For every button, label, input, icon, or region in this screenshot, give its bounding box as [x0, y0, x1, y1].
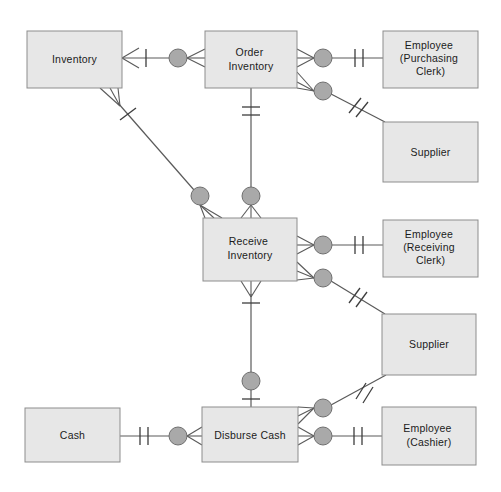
- crowsfoot-receive-inventory-right-employee: [297, 236, 314, 254]
- relationship-node-order-employee[interactable]: [314, 49, 332, 67]
- crowsfoot-order-inventory-left: [187, 49, 205, 67]
- crowsfoot-receive-inventory-topleft: [200, 205, 222, 218]
- crowsfoot-receive-inventory-right-supplier: [297, 262, 314, 280]
- crowsfoot-order-inventory-right-employee: [297, 49, 314, 67]
- entity-employee-purchasing-clerk[interactable]: Employee (Purchasing Clerk): [383, 31, 478, 88]
- tick-receive-supplier-a: [349, 288, 360, 303]
- entity-supplier-bottom-label: Supplier: [409, 338, 449, 350]
- relationship-node-receive-employee[interactable]: [314, 236, 332, 254]
- entity-receive-inventory[interactable]: Receive Inventory: [203, 218, 297, 281]
- entity-supplier-top-label: Supplier: [410, 146, 450, 158]
- relationship-node-order-receive[interactable]: [242, 187, 260, 205]
- crowsfoot-disburse-cash-right-employee: [298, 427, 314, 445]
- relationship-node-order-supplier[interactable]: [314, 82, 332, 100]
- crowsfoot-disburse-cash-right-supplier: [298, 407, 314, 424]
- entity-supplier-bottom[interactable]: Supplier: [382, 314, 476, 375]
- relationship-node-receive-supplier[interactable]: [314, 269, 332, 287]
- entity-order-inventory[interactable]: Order Inventory: [205, 31, 297, 88]
- entity-cash-label: Cash: [60, 429, 85, 441]
- entity-cash[interactable]: Cash: [25, 408, 120, 462]
- entity-employee-receiving-clerk[interactable]: Employee (Receiving Clerk): [383, 220, 478, 277]
- entity-inventory-label: Inventory: [52, 53, 98, 65]
- entity-disburse-cash-label: Disburse Cash: [214, 429, 285, 441]
- tick-inventory-receive-one: [120, 108, 136, 120]
- relationship-node-receive-disburse[interactable]: [242, 372, 260, 390]
- line-disburse-cash-supplier: [331, 375, 386, 405]
- tick-receive-supplier-b: [356, 292, 367, 307]
- relationship-node-inventory-receive[interactable]: [191, 187, 209, 205]
- er-diagram-svg: Inventory Order Inventory Employee (Purc…: [0, 0, 501, 492]
- crowsfoot-receive-inventory-top: [241, 205, 261, 218]
- entity-inventory[interactable]: Inventory: [27, 31, 122, 88]
- crowsfoot-disburse-cash-left: [187, 427, 202, 445]
- relationship-node-cash-disburse[interactable]: [169, 427, 187, 445]
- relationship-node-inventory-order[interactable]: [169, 49, 187, 67]
- crowsfoot-order-inventory-right-supplier: [297, 72, 314, 91]
- line-order-inventory-supplier: [331, 94, 385, 122]
- line-inventory-receive-inventory: [118, 103, 194, 190]
- entity-disburse-cash[interactable]: Disburse Cash: [202, 407, 298, 462]
- line-receive-inventory-supplier: [331, 281, 385, 314]
- entity-employee-cashier[interactable]: Employee (Cashier): [382, 407, 476, 465]
- relationship-node-disburse-supplier[interactable]: [314, 399, 332, 417]
- entity-supplier-top[interactable]: Supplier: [383, 122, 478, 182]
- tick-disburse-supplier-b: [363, 387, 373, 403]
- er-diagram-canvas: Inventory Order Inventory Employee (Purc…: [0, 0, 501, 492]
- crowsfoot-inventory-bottom: [100, 88, 120, 106]
- tick-order-supplier-b: [356, 102, 368, 117]
- relationship-node-disburse-employee[interactable]: [314, 427, 332, 445]
- tick-order-supplier-a: [349, 98, 361, 113]
